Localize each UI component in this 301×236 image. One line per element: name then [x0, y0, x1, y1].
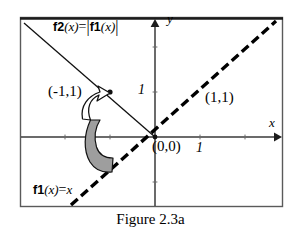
- f1-name: f1: [33, 183, 44, 197]
- f1-argument: (x): [44, 182, 58, 197]
- y-axis-tick-label-1: 1: [138, 83, 145, 97]
- x-axis-tick-label-1: 1: [196, 141, 203, 155]
- plot-canvas: [0, 0, 301, 236]
- label-function-f1: f1(x)=x: [33, 183, 72, 197]
- f2-name: f2: [53, 20, 64, 34]
- f1-rhs: x: [66, 182, 72, 197]
- f2-argument: (x): [64, 19, 78, 34]
- figure-caption: Figure 2.3a: [0, 211, 301, 228]
- f1-argument-inner: (x): [101, 19, 115, 34]
- f2-abs-close: |: [115, 18, 118, 35]
- y-axis-label: y: [167, 12, 173, 25]
- label-function-f2: f2(x)=|f1(x)|: [53, 18, 118, 34]
- f1-name-inner: f1: [90, 20, 101, 34]
- figure-frame: [21, 18, 283, 207]
- figure-container: f2(x)=|f1(x)| f1(x)=x (-1,1) (1,1) (0,0)…: [0, 0, 301, 236]
- f2-abs-open: |: [86, 18, 89, 35]
- point-label-one-one: (1,1): [205, 90, 234, 105]
- point-label-neg-one-one: (-1,1): [48, 84, 82, 99]
- x-axis-label: x: [269, 116, 275, 129]
- point-label-origin: (0,0): [152, 139, 181, 154]
